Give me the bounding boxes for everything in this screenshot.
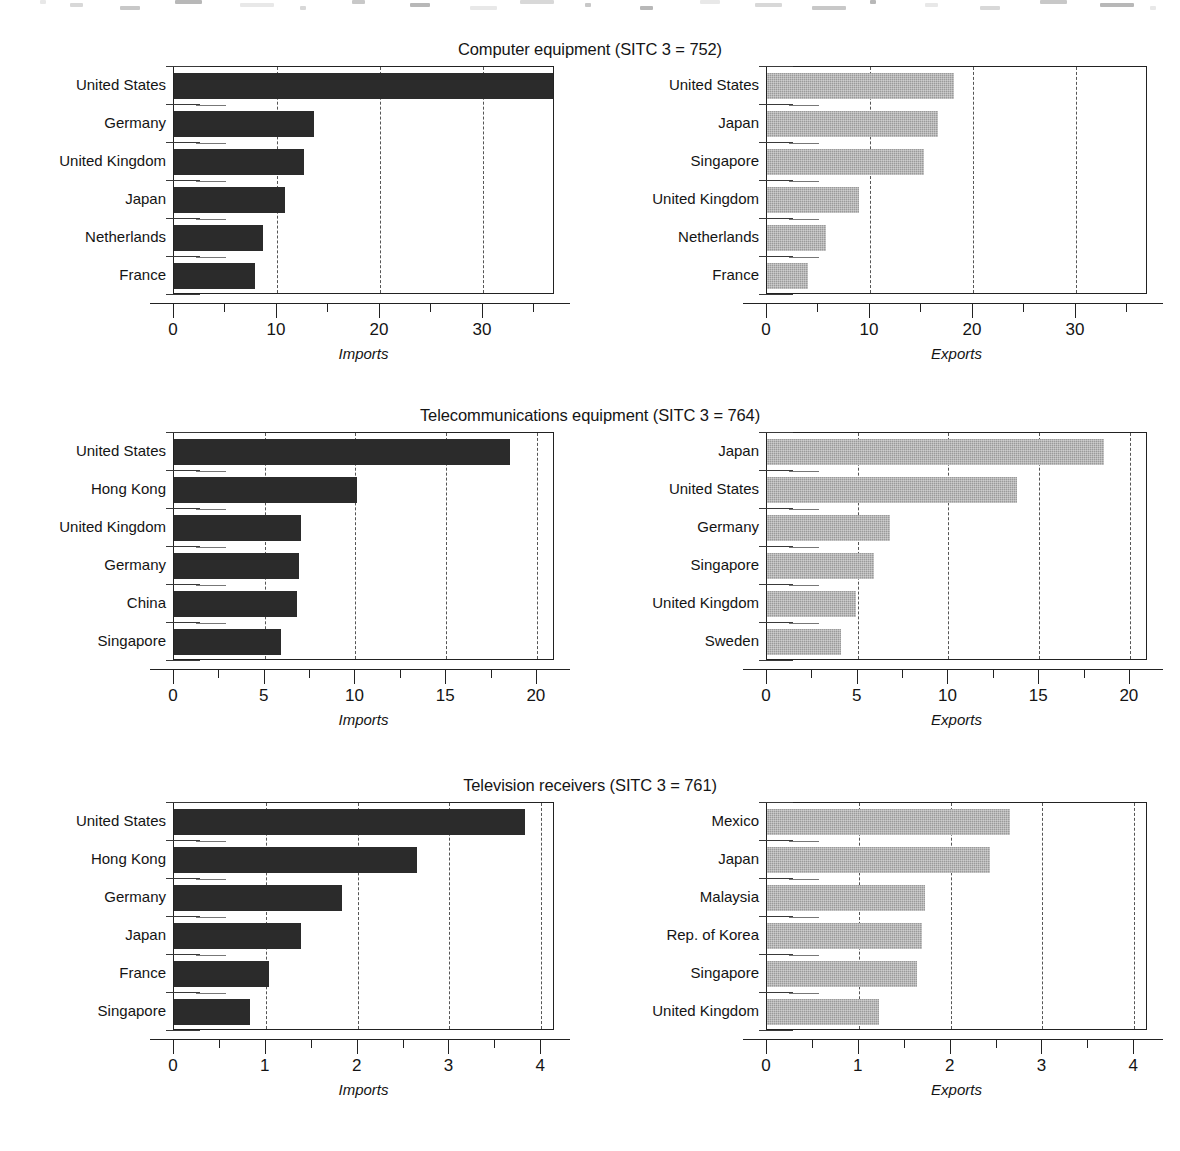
- x-tick-major: [947, 669, 948, 684]
- chart-panel-imports: United StatesHong KongGermanyJapanFrance…: [0, 796, 590, 1096]
- y-tick-inner: [789, 879, 819, 880]
- x-tick-minor: [494, 1039, 495, 1048]
- bar[interactable]: [174, 515, 301, 541]
- gridline: [1130, 433, 1131, 659]
- x-tick-label: 0: [168, 1056, 177, 1076]
- y-tick: [166, 256, 200, 257]
- bar[interactable]: [174, 73, 553, 99]
- gridline: [1039, 433, 1040, 659]
- y-tick: [759, 916, 793, 917]
- bar[interactable]: [174, 809, 525, 835]
- bar[interactable]: [767, 439, 1104, 465]
- chart-panel-pair: United StatesGermanyUnited KingdomJapanN…: [0, 60, 1180, 360]
- category-label: United Kingdom: [59, 152, 166, 170]
- bar[interactable]: [174, 847, 417, 873]
- x-tick-label: 15: [1029, 686, 1048, 706]
- x-tick-label: 3: [1037, 1056, 1046, 1076]
- bar[interactable]: [767, 515, 890, 541]
- bar[interactable]: [174, 961, 269, 987]
- bar[interactable]: [174, 591, 297, 617]
- bar[interactable]: [767, 591, 856, 617]
- y-tick: [166, 584, 200, 585]
- category-label: Japan: [125, 190, 166, 208]
- bar[interactable]: [174, 885, 342, 911]
- bar[interactable]: [767, 885, 925, 911]
- category-label: United States: [76, 812, 166, 830]
- gridline: [265, 433, 266, 659]
- bar[interactable]: [767, 629, 841, 655]
- bar[interactable]: [767, 923, 922, 949]
- x-tick-minor: [1023, 303, 1024, 312]
- x-tick-label: 0: [761, 320, 770, 340]
- category-axis-labels: United StatesHong KongUnited KingdomGerm…: [0, 432, 166, 660]
- x-axis-line: [150, 1039, 570, 1040]
- chart-panel-imports: United StatesHong KongUnited KingdomGerm…: [0, 426, 590, 726]
- bar[interactable]: [767, 111, 938, 137]
- bar[interactable]: [174, 149, 304, 175]
- bar[interactable]: [174, 999, 250, 1025]
- y-tick: [166, 470, 200, 471]
- x-tick-label: 20: [962, 320, 981, 340]
- bar[interactable]: [174, 187, 285, 213]
- x-tick-label: 10: [345, 686, 364, 706]
- chart-panel-exports: MexicoJapanMalaysiaRep. of KoreaSingapor…: [590, 796, 1180, 1096]
- y-tick: [166, 294, 200, 295]
- x-tick-major: [540, 1039, 541, 1054]
- bar[interactable]: [174, 225, 263, 251]
- bar[interactable]: [767, 961, 917, 987]
- y-tick-inner: [196, 219, 226, 220]
- y-tick: [166, 180, 200, 181]
- y-tick-inner: [789, 623, 819, 624]
- plot-area: [766, 802, 1147, 1030]
- bar[interactable]: [767, 999, 879, 1025]
- category-label: United Kingdom: [59, 518, 166, 536]
- bar[interactable]: [767, 73, 954, 99]
- y-tick: [166, 802, 200, 803]
- y-tick: [166, 622, 200, 623]
- y-tick-inner: [789, 547, 819, 548]
- bar[interactable]: [767, 149, 924, 175]
- x-tick-label: 4: [1128, 1056, 1137, 1076]
- y-tick-inner: [196, 585, 226, 586]
- bar[interactable]: [767, 809, 1010, 835]
- y-tick-inner: [196, 547, 226, 548]
- y-tick-inner: [196, 879, 226, 880]
- x-tick-minor: [327, 303, 328, 312]
- y-tick-inner: [789, 917, 819, 918]
- y-tick-inner: [789, 143, 819, 144]
- bar[interactable]: [767, 225, 826, 251]
- x-axis-line: [150, 303, 570, 304]
- bar[interactable]: [767, 847, 990, 873]
- x-tick-label: 10: [267, 320, 286, 340]
- category-axis-labels: United StatesJapanSingaporeUnited Kingdo…: [590, 66, 759, 294]
- bar[interactable]: [174, 923, 301, 949]
- bar[interactable]: [174, 553, 299, 579]
- y-tick: [759, 256, 793, 257]
- bar[interactable]: [767, 477, 1017, 503]
- bar[interactable]: [174, 111, 314, 137]
- x-tick-minor: [996, 1039, 997, 1048]
- category-label: Netherlands: [678, 228, 759, 246]
- x-tick-minor: [311, 1039, 312, 1048]
- x-tick-major: [869, 303, 870, 318]
- x-tick-minor: [1126, 303, 1127, 312]
- y-tick: [166, 142, 200, 143]
- plot-area: [766, 432, 1147, 660]
- bar[interactable]: [174, 263, 255, 289]
- bar[interactable]: [174, 629, 281, 655]
- bar[interactable]: [174, 477, 357, 503]
- x-tick-label: 10: [938, 686, 957, 706]
- y-tick: [166, 546, 200, 547]
- y-tick: [759, 878, 793, 879]
- category-label: Singapore: [98, 632, 166, 650]
- x-tick-label: 4: [535, 1056, 544, 1076]
- bar[interactable]: [767, 187, 859, 213]
- x-tick-minor: [904, 1039, 905, 1048]
- category-label: France: [712, 266, 759, 284]
- bar[interactable]: [767, 553, 874, 579]
- bar[interactable]: [174, 439, 510, 465]
- chart-figure: Computer equipment (SITC 3 = 752)United …: [0, 38, 1180, 360]
- x-tick-label: 20: [1119, 686, 1138, 706]
- bar[interactable]: [767, 263, 808, 289]
- chart-figure: Television receivers (SITC 3 = 761)Unite…: [0, 774, 1180, 1096]
